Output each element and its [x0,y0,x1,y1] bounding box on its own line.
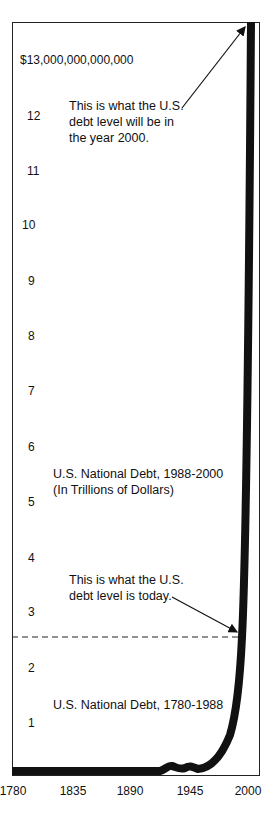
y-tick-7: 7 [28,384,35,398]
y-tick-11: 11 [27,164,39,178]
today-annotation: This is what the U.S. debt level is toda… [69,572,184,604]
today-annotation-line: This is what the U.S. [69,572,184,588]
x-tick-1890: 1890 [117,784,144,798]
x-tick-2000: 2000 [235,784,262,798]
y-tick-1: 1 [28,716,35,730]
y-tick-10: 10 [22,218,35,232]
y-tick-13: $13,000,000,000,000 [20,53,133,67]
y-tick-5: 5 [28,495,35,509]
y-tick-2: 2 [28,661,35,675]
future-arrow [182,27,245,108]
future-annotation-line: the year 2000. [69,130,184,146]
x-tick-1780: 1780 [0,784,26,798]
y-tick-6: 6 [28,440,35,454]
legend-line: U.S. National Debt, 1988-2000 [53,466,223,482]
future-annotation: This is what the U.S. debt level will be… [69,98,184,146]
y-tick-3: 3 [28,605,35,619]
legend-1780-1988: U.S. National Debt, 1780-1988 [53,697,223,713]
y-tick-8: 8 [28,329,35,343]
future-annotation-line: debt level will be in [69,114,184,130]
legend-units: (In Trillions of Dollars) [53,482,223,498]
today-annotation-line: debt level is today. [69,588,184,604]
x-tick-1945: 1945 [177,784,204,798]
y-tick-9: 9 [28,274,35,288]
legend-1988-2000: U.S. National Debt, 1988-2000 (In Trilli… [53,466,223,498]
x-tick-1835: 1835 [60,784,87,798]
future-annotation-line: This is what the U.S. [69,98,184,114]
y-tick-12: 12 [27,109,40,123]
y-tick-4: 4 [28,551,35,565]
